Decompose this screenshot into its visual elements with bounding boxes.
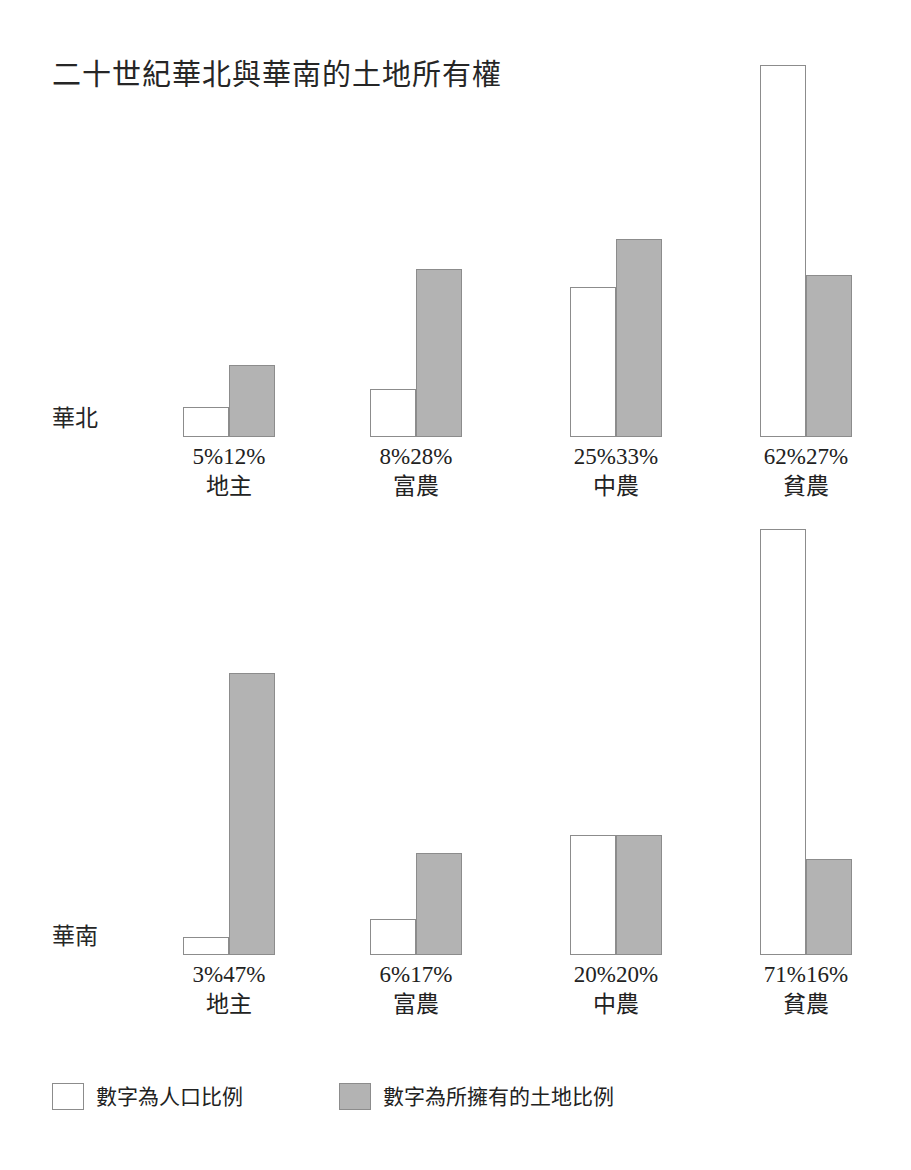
bar-group-labels: 6%17%富農	[370, 518, 462, 519]
bar-group	[183, 0, 275, 437]
legend-item-population: 數字為人口比例	[52, 1083, 243, 1110]
bar-group	[370, 0, 462, 437]
bar-group-label: 地主	[183, 473, 275, 501]
value-population: 6%	[380, 961, 411, 988]
bar-group-label: 中農	[570, 473, 662, 501]
bar-land	[616, 239, 662, 437]
legend-swatch-population-icon	[52, 1083, 84, 1110]
bar-land	[806, 859, 852, 955]
bar-group-values: 5%12%	[183, 443, 275, 470]
value-land: 20%	[616, 961, 658, 988]
value-population: 3%	[193, 961, 224, 988]
bar-group-label: 地主	[183, 991, 275, 1019]
bar-group-label: 中農	[570, 991, 662, 1019]
bar-population	[570, 287, 616, 437]
bar-land	[416, 269, 462, 437]
bar-group-labels: 5%12%地主	[183, 0, 275, 1]
bar-population	[570, 835, 616, 955]
bar-group	[760, 0, 852, 437]
legend-item-land: 數字為所擁有的土地比例	[339, 1083, 614, 1110]
bar-land	[616, 835, 662, 955]
value-population: 25%	[574, 443, 616, 470]
value-population: 5%	[193, 443, 224, 470]
bar-group-values: 25%33%	[570, 443, 662, 470]
value-population: 62%	[764, 443, 806, 470]
chart-panel-south: 華南 3%47%地主6%17%富農20%20%中農71%16%貧農	[0, 518, 911, 1038]
value-population: 8%	[380, 443, 411, 470]
bar-group-labels: 25%33%中農	[570, 0, 662, 1]
bar-group-values: 3%47%	[183, 961, 275, 988]
bar-land	[229, 673, 275, 955]
bar-group-label: 富農	[370, 473, 462, 501]
plot-area-north: 5%12%地主8%28%富農25%33%中農62%27%貧農	[0, 0, 911, 437]
value-land: 27%	[806, 443, 848, 470]
bar-population	[183, 407, 229, 437]
bar-population	[370, 389, 416, 437]
value-land: 17%	[410, 961, 452, 988]
value-land: 16%	[806, 961, 848, 988]
value-land: 33%	[616, 443, 658, 470]
chart-panel-north: 華北 5%12%地主8%28%富農25%33%中農62%27%貧農	[0, 0, 911, 520]
bar-group-labels: 8%28%富農	[370, 0, 462, 1]
value-land: 28%	[410, 443, 452, 470]
value-land: 12%	[223, 443, 265, 470]
bar-group	[760, 518, 852, 955]
bar-population	[370, 919, 416, 955]
bar-group-labels: 62%27%貧農	[760, 0, 852, 1]
chart-figure: 二十世紀華北與華南的土地所有權 華北 5%12%地主8%28%富農25%33%中…	[0, 0, 911, 1170]
bar-group-values: 62%27%	[760, 443, 852, 470]
legend-label-land: 數字為所擁有的土地比例	[383, 1084, 614, 1110]
bar-group-values: 8%28%	[370, 443, 462, 470]
bar-population	[760, 529, 806, 955]
bar-land	[806, 275, 852, 437]
value-population: 71%	[764, 961, 806, 988]
legend-swatch-land-icon	[339, 1083, 371, 1110]
bar-land	[416, 853, 462, 955]
bar-group-labels: 71%16%貧農	[760, 518, 852, 519]
legend-label-population: 數字為人口比例	[96, 1084, 243, 1110]
bar-population	[760, 65, 806, 437]
bar-group-values: 20%20%	[570, 961, 662, 988]
bar-group	[370, 518, 462, 955]
bar-population	[183, 937, 229, 955]
value-land: 47%	[223, 961, 265, 988]
bar-group-labels: 3%47%地主	[183, 518, 275, 519]
bar-group-label: 貧農	[760, 473, 852, 501]
bar-group-values: 6%17%	[370, 961, 462, 988]
plot-area-south: 3%47%地主6%17%富農20%20%中農71%16%貧農	[0, 518, 911, 955]
value-population: 20%	[574, 961, 616, 988]
bar-group-values: 71%16%	[760, 961, 852, 988]
bar-group-label: 富農	[370, 991, 462, 1019]
bar-group-labels: 20%20%中農	[570, 518, 662, 519]
bar-group-label: 貧農	[760, 991, 852, 1019]
bar-group	[570, 0, 662, 437]
bar-group	[183, 518, 275, 955]
bar-group	[570, 518, 662, 955]
bar-land	[229, 365, 275, 437]
